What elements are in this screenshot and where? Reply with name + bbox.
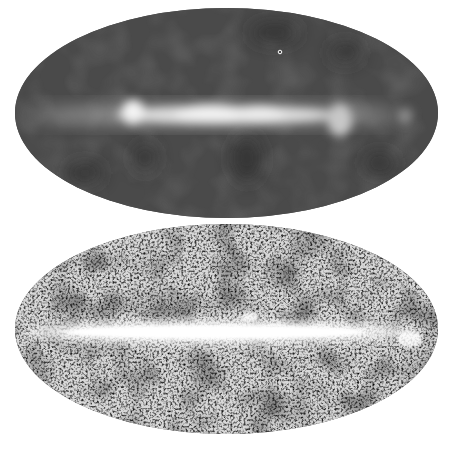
sky-map-top bbox=[15, 8, 438, 218]
sky-map-bottom bbox=[15, 224, 438, 434]
sky-map-bottom-graphic bbox=[15, 224, 438, 434]
sky-map-top-graphic bbox=[15, 8, 438, 218]
